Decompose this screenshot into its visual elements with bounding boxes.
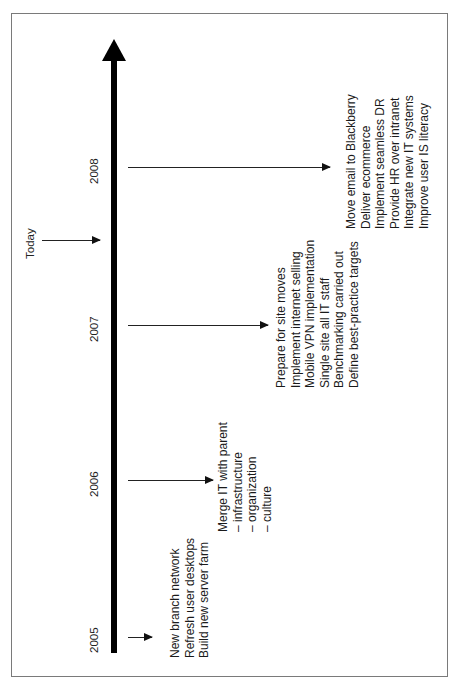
list-item: – organization	[245, 422, 260, 532]
milestone-arrow-2006-icon	[128, 480, 213, 481]
list-item: Integrate new IT systems	[402, 94, 417, 229]
list-item: Single site all IT staff	[318, 240, 333, 388]
timeline-arrowhead-icon	[102, 39, 126, 61]
list-item: Refresh user desktops	[183, 538, 198, 658]
milestone-2005-items: New branch network Refresh user desktops…	[168, 538, 212, 658]
list-item: Merge IT with parent	[216, 422, 231, 532]
milestone-arrow-2007-icon	[128, 325, 268, 326]
list-item: Provide HR over intranet	[388, 94, 403, 229]
list-item: Improve user IS literacy	[417, 94, 432, 229]
list-item: Move email to Blackberry	[344, 94, 359, 229]
list-item: Build new server farm	[197, 538, 212, 658]
list-item: New branch network	[168, 538, 183, 658]
list-item: Deliver ecommerce	[359, 94, 374, 229]
list-item: Implement seamless DR	[373, 94, 388, 229]
year-label-2008: 2008	[88, 158, 100, 184]
list-item: – infrastructure	[231, 422, 246, 532]
year-label-2006: 2006	[88, 471, 100, 497]
list-item: Mobile VPN implementation	[303, 240, 318, 388]
milestone-2006-items: Merge IT with parent – infrastructure – …	[216, 422, 274, 532]
year-label-2007: 2007	[88, 316, 100, 342]
milestone-2007-items: Prepare for site moves Implement interne…	[274, 240, 361, 388]
list-item: Benchmarking carried out	[332, 240, 347, 388]
milestone-arrow-2005-icon	[128, 637, 152, 638]
today-label: Today	[24, 228, 36, 259]
list-item: Implement internet selling	[289, 240, 304, 388]
today-arrow-icon	[42, 240, 100, 241]
timeline-axis	[111, 58, 117, 653]
year-label-2005: 2005	[88, 627, 100, 653]
list-item: – culture	[260, 422, 275, 532]
milestone-2008-items: Move email to Blackberry Deliver ecommer…	[344, 94, 431, 229]
milestone-arrow-2008-icon	[128, 167, 330, 168]
list-item: Prepare for site moves	[274, 240, 289, 388]
list-item: Define best-practice targets	[347, 240, 362, 388]
